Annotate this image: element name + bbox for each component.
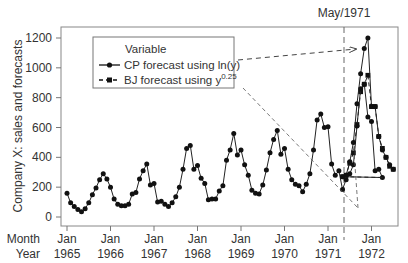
legend-bj-label: BJ forecast using y0.25 [124,72,237,86]
data-point [329,162,334,167]
y-axis: 020040060080010001200 [25,31,61,224]
data-point [304,182,309,187]
data-point [246,173,251,178]
data-point [108,185,113,190]
data-point [220,183,225,188]
data-point [318,112,323,117]
data-point [68,200,73,205]
cp-arrow [238,49,356,60]
data-point [307,171,312,176]
data-point [268,150,273,155]
legend: Variable CP forecast using ln(y) BJ fore… [93,37,240,88]
data-point [86,200,91,205]
data-point [97,177,102,182]
data-point [289,177,294,182]
x-tick-month: Jan [362,232,381,246]
data-point [90,192,95,197]
data-point [83,206,88,211]
data-point [326,124,331,129]
x-tick-month: Jan [275,232,294,246]
data-point [365,115,370,120]
data-point [104,176,109,181]
data-point [188,143,193,148]
data-point [260,182,265,187]
x-tick-month: Jan [188,232,207,246]
data-point [217,188,222,193]
x-tick-month: Jan [101,232,120,246]
x-tick-year: 1971 [315,247,342,261]
data-point [231,131,236,136]
data-point [271,137,276,142]
data-point [355,101,360,106]
data-point [391,167,396,172]
x-tick-year: 1966 [97,247,124,261]
data-point [112,197,117,202]
x-tick-month: Jan [144,232,163,246]
y-tick-label: 800 [32,91,52,105]
data-point [199,176,204,181]
data-point [300,189,305,194]
x-tick-month: Jan [318,232,337,246]
data-point [365,36,370,41]
data-point [152,181,157,186]
y-tick-label: 400 [32,150,52,164]
data-point [101,171,106,176]
data-point [213,197,218,202]
data-point [369,119,374,124]
data-point [315,118,320,123]
data-point [387,162,392,167]
data-point [94,185,99,190]
x-tick-month: Jan [231,232,250,246]
data-point [224,158,229,163]
data-point [239,147,244,152]
data-point [286,167,291,172]
x-tick-year: 1969 [228,247,255,261]
series-line [67,84,382,212]
series-0 [65,82,385,215]
data-point [65,191,70,196]
data-point [275,128,280,133]
x-tick-year: 1972 [358,247,385,261]
month-row-label: Month [7,232,40,246]
data-point [311,147,316,152]
x-tick-year: 1970 [271,247,298,261]
legend-bj-label-main: BJ forecast using y [124,74,221,86]
x-tick-year: 1965 [54,247,81,261]
data-point [257,191,262,196]
data-point [181,167,186,172]
data-point [170,200,175,205]
data-point [333,173,338,178]
data-point [362,82,367,87]
data-point [376,134,381,139]
data-point [347,159,352,164]
data-point [173,194,178,199]
data-point [144,162,149,167]
legend-cp-marker-icon [107,62,112,67]
y-tick-label: 0 [45,210,52,224]
data-point [344,173,349,178]
data-point [242,162,247,167]
series-1 [340,36,396,180]
x-tick-year: 1968 [184,247,211,261]
bj-arrow-up [354,152,358,208]
data-point [384,155,389,160]
data-point [235,153,240,158]
x-tick-month: Jan [57,232,76,246]
legend-cp-label: CP forecast using ln(y) [124,59,240,71]
data-point [297,183,302,188]
data-point [351,140,356,145]
data-point [177,185,182,190]
data-point [166,204,171,209]
y-tick-label: 600 [32,121,52,135]
x-axis: Jan1965Jan1966Jan1967Jan1968Jan1969Jan19… [54,226,386,261]
y-axis-title: Company X: sales and forecasts [11,40,25,213]
data-point [376,167,381,172]
legend-title: Variable [125,43,166,55]
data-point [195,163,200,168]
year-row-label: Year [16,247,40,261]
data-point [373,104,378,109]
data-point [137,176,142,181]
data-point [282,146,287,151]
data-point [358,71,363,76]
data-point [126,202,131,207]
